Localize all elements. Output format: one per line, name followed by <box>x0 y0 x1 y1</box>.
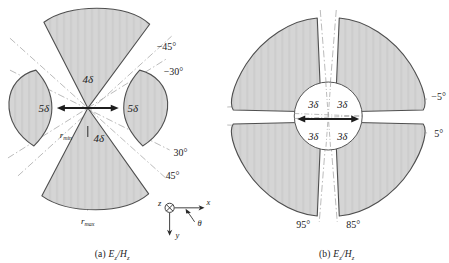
panel-a: 4δ 4δ 5δ 5δ −45° −30° 30° 45° rmin rmax <box>0 0 225 263</box>
axis-triad: z x y θ <box>157 197 211 240</box>
label-lobe-left: 5δ <box>39 102 50 114</box>
axis-label-z: z <box>157 198 162 208</box>
panel-b-caption-sub2: z <box>352 254 355 261</box>
panel-b: 3δ 3δ 3δ 3δ −5° 5° 95° 85° (b) Ez/Hz <box>225 0 449 263</box>
panel-b-caption-slash: /H <box>342 249 352 259</box>
label-lobe-bottom: 4δ <box>93 132 104 144</box>
label-lobe-bottom-left: 3δ <box>307 131 319 142</box>
angle-label-minus5: −5° <box>431 91 446 102</box>
label-lobe-bottom-right: 3δ <box>336 131 348 142</box>
label-r-max: rmax <box>81 216 95 227</box>
panel-a-caption: (a) Ez/Hz <box>0 249 225 261</box>
angle-label-85: 85° <box>346 219 360 230</box>
label-lobe-top-left: 3δ <box>307 99 319 110</box>
panel-b-caption-tag: (b) <box>319 249 331 259</box>
panel-a-caption-tag: (a) <box>95 249 106 259</box>
label-lobe-top-right: 3δ <box>336 99 348 110</box>
panel-b-diagram: 3δ 3δ 3δ 3δ −5° 5° 95° 85° <box>225 0 449 263</box>
axis-label-theta: θ <box>198 218 202 228</box>
angle-label-minus30: −30° <box>164 66 184 77</box>
figure-container: 4δ 4δ 5δ 5δ −45° −30° 30° 45° rmin rmax <box>0 0 449 263</box>
label-lobe-right: 5δ <box>127 102 138 114</box>
angle-label-30: 30° <box>174 147 188 158</box>
angle-label-minus45: −45° <box>157 41 177 52</box>
panel-b-caption: (b) Ez/Hz <box>225 249 449 261</box>
theta-arc <box>188 212 195 222</box>
theta-arrow <box>186 209 191 214</box>
axis-label-y: y <box>175 230 180 240</box>
panel-a-diagram: 4δ 4δ 5δ 5δ −45° −30° 30° 45° rmin rmax <box>0 0 225 263</box>
label-lobe-top: 4δ <box>83 73 94 85</box>
label-r-min: rmin <box>60 130 72 141</box>
angle-label-95: 95° <box>296 219 310 230</box>
axis-label-x: x <box>206 197 211 207</box>
angle-label-5: 5° <box>434 128 443 139</box>
panel-a-caption-slash: /H <box>117 249 127 259</box>
panel-a-caption-sub2: z <box>127 254 130 261</box>
angle-label-45: 45° <box>166 170 180 181</box>
